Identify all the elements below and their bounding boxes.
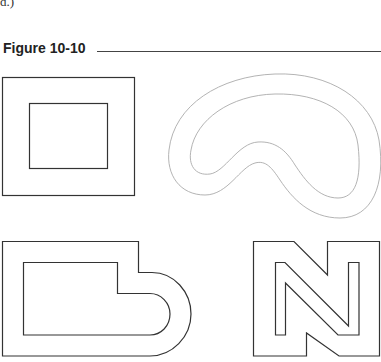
n-letter-outer [254,242,380,357]
b-shape-inner [24,263,171,336]
kidney-outer [169,74,381,218]
square-inner [30,104,108,169]
square-outer [3,78,135,196]
n-letter-inner [276,263,360,336]
kidney-inner [190,94,359,198]
figure-canvas [0,0,381,362]
n-letter-outline [254,242,380,357]
kidney-band [169,74,381,218]
b-shape-frame [3,242,192,357]
square-frame [3,78,135,196]
